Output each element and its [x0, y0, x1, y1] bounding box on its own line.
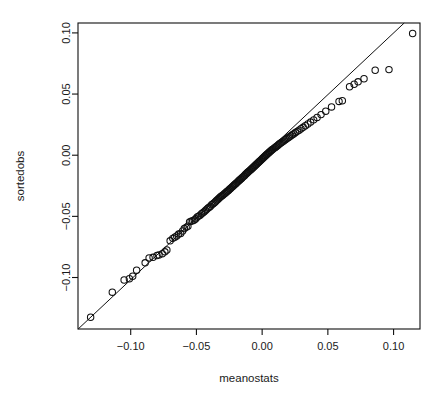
y-axis-label: sortedobs: [14, 151, 26, 202]
y-tick-label: −0.10: [60, 264, 72, 292]
x-tick-label: 0.10: [383, 340, 404, 352]
x-axis-label: meanostats: [219, 372, 279, 384]
y-tick-label: −0.05: [60, 202, 72, 230]
y-tick-label: 0.00: [60, 144, 72, 165]
x-tick-label: 0.05: [317, 340, 338, 352]
y-tick-label: 0.05: [60, 83, 72, 104]
qq-plot-canvas: −0.10−0.050.000.050.10 −0.10−0.050.000.0…: [0, 0, 441, 407]
x-tick-label: −0.05: [183, 340, 211, 352]
qq-plot-figure: −0.10−0.050.000.050.10 −0.10−0.050.000.0…: [0, 0, 441, 407]
x-tick-label: 0.00: [251, 340, 272, 352]
x-tick-label: −0.10: [117, 340, 145, 352]
y-tick-label: 0.10: [60, 22, 72, 43]
